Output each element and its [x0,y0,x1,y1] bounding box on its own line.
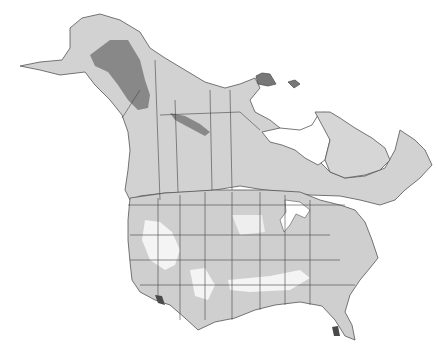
canada-alaska-landmass [20,14,432,205]
dark-zone-florida [332,326,340,336]
arctic-island-2 [288,80,300,88]
north-america-map [0,0,439,349]
arctic-island [256,73,276,86]
